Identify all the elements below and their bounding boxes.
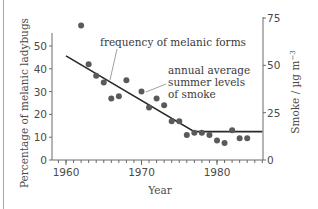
x-axis-title: Year	[147, 184, 172, 196]
left-y-tick-label: 30	[34, 86, 47, 98]
x-tick-label: 1960	[53, 166, 80, 178]
annotation-smoke-line-3: of smoke	[168, 88, 216, 100]
left-y-tick-label: 40	[34, 63, 47, 75]
x-axis-ticks: 196019701980	[53, 160, 263, 178]
right-y-tick-label: 50	[267, 59, 280, 71]
right-y-tick-label: 75	[267, 12, 280, 24]
right-y-tick-label: 0	[267, 154, 274, 166]
melanic-data-point	[116, 93, 122, 99]
x-tick-label: 1980	[204, 166, 231, 178]
melanic-data-point	[222, 140, 228, 146]
y-axis-title: Percentage of melanic ladybugs	[18, 18, 30, 188]
melanic-data-point	[206, 132, 212, 138]
annotation-leader-lines	[110, 49, 166, 92]
melanic-data-point	[78, 22, 84, 28]
left-y-tick-label: 10	[34, 131, 47, 143]
melanic-data-point	[146, 105, 152, 111]
melanic-data-point	[93, 73, 99, 79]
melanic-data-point	[169, 118, 175, 124]
left-y-tick-label: 50	[34, 40, 47, 52]
melanic-data-point	[123, 77, 129, 83]
left-y-tick-label: 0	[40, 154, 47, 166]
right-y-axis-ticks: 0255075	[263, 12, 280, 166]
melanic-data-point	[176, 118, 182, 124]
melanic-data-point	[154, 95, 160, 101]
melanic-data-point	[244, 135, 250, 141]
melanic-data-point	[214, 138, 220, 144]
left-y-axis-ticks: 01020304050	[34, 40, 52, 166]
melanic-data-point	[229, 127, 235, 133]
melanic-data-point	[191, 130, 197, 136]
y2-axis-title: Smoke / µg m−3	[289, 50, 301, 133]
melanic-data-point	[199, 130, 205, 136]
melanic-data-point	[101, 79, 107, 85]
melanic-data-point	[184, 132, 190, 138]
y2-axis-title-main: Smoke / µg m	[289, 61, 301, 134]
x-tick-label: 1970	[128, 166, 155, 178]
annotation-smoke-line-1: annual average	[168, 64, 250, 76]
chart: 01020304050 0255075 196019701980 Year Pe…	[0, 0, 318, 209]
left-y-tick-label: 20	[34, 108, 47, 120]
y2-axis-title-superscript: −3	[289, 50, 297, 60]
smoke-annotation-leader	[146, 84, 166, 92]
melanic-annotation-leader	[110, 49, 117, 80]
right-y-tick-label: 25	[267, 107, 280, 119]
melanic-data-point	[108, 95, 114, 101]
annotation-smoke-line-2: summer levels	[168, 76, 245, 88]
melanic-data-point	[237, 135, 243, 141]
annotation-melanic-frequency: frequency of melanic forms	[100, 36, 246, 48]
melanic-data-point	[161, 102, 167, 108]
melanic-data-point	[139, 89, 145, 95]
melanic-data-point	[86, 61, 92, 67]
